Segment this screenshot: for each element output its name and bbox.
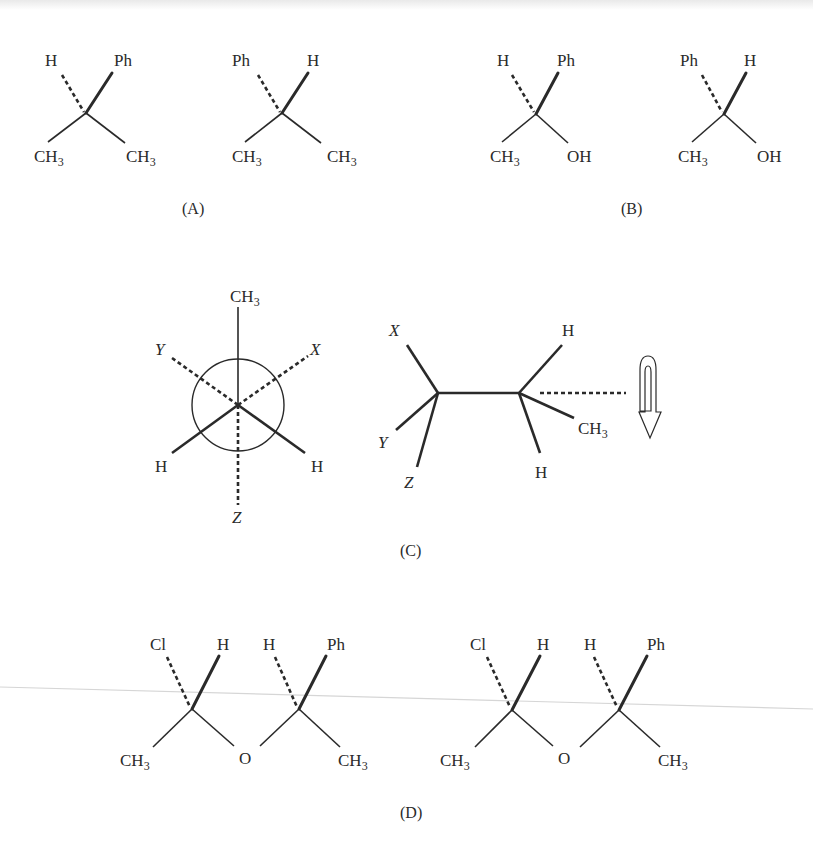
bond: [580, 710, 619, 747]
wedge-bond: [192, 656, 219, 709]
front-bond-right: [238, 405, 305, 453]
atom-label: CH3: [578, 419, 608, 441]
atom-label: Z: [232, 508, 242, 527]
panel-c: CH3 Y X H H Z X Y Z H CH3 H (C): [155, 287, 661, 560]
structure-d2: Cl H H Ph CH3 O CH3: [440, 635, 688, 773]
atom-label: O: [239, 749, 251, 768]
bond: [282, 113, 321, 143]
bond: [245, 113, 282, 142]
atom-label: H: [307, 51, 319, 70]
atom-label: CH3: [126, 147, 156, 169]
dashed-bond: [167, 657, 190, 707]
atom-label: H: [744, 51, 756, 70]
atom-label: X: [388, 321, 400, 340]
atom-label: H: [263, 635, 275, 654]
bond: [86, 113, 125, 143]
atom-label: CH3: [440, 751, 470, 773]
structure-b2: Ph H CH3 OH: [678, 51, 782, 169]
bond-x: [407, 345, 438, 393]
bond-z: [417, 393, 438, 467]
panel-caption: (D): [400, 804, 422, 822]
atom-label: Z: [404, 473, 414, 492]
bond: [299, 709, 340, 747]
atom-label: Cl: [470, 635, 486, 654]
panel-b: H Ph CH3 OH Ph H CH3 OH (B): [490, 51, 782, 218]
rotation-arrow-icon: [639, 356, 661, 438]
atom-label: CH3: [327, 147, 357, 169]
bond-h-up: [519, 345, 562, 393]
atom-label: CH3: [338, 751, 368, 773]
atom-label: Y: [155, 340, 166, 359]
atom-label: Ph: [680, 51, 698, 70]
wedge-bond: [619, 656, 647, 710]
atom-label: Cl: [150, 635, 166, 654]
atom-label: O: [558, 749, 570, 768]
atom-label: OH: [757, 147, 782, 166]
structure-a1: H Ph CH3 CH3: [34, 51, 156, 169]
atom-label: Y: [378, 433, 389, 452]
atom-label: H: [217, 635, 229, 654]
bond: [475, 710, 512, 747]
atom-label: CH3: [232, 147, 262, 169]
front-bond-left: [172, 405, 238, 453]
atom-label: H: [155, 457, 167, 476]
atom-label: CH3: [658, 751, 688, 773]
dashed-bond: [258, 75, 280, 112]
wedge-bond: [299, 656, 326, 709]
bond: [153, 709, 192, 747]
panel-a: H Ph CH3 CH3 Ph H CH3 CH3 (A): [34, 51, 357, 218]
back-bond-right: [238, 356, 308, 405]
atom-label: CH3: [120, 751, 150, 773]
wedge-bond: [282, 73, 308, 113]
dashed-bond: [487, 657, 510, 707]
bond: [260, 709, 299, 746]
bond: [512, 710, 553, 746]
atom-label: X: [309, 340, 321, 359]
atom-label: Ph: [557, 51, 575, 70]
bond: [502, 114, 536, 142]
atom-label: OH: [567, 147, 592, 166]
atom-label: H: [562, 321, 574, 340]
structure-d1: Cl H H Ph CH3 O CH3: [120, 635, 368, 773]
atom-label: Ph: [114, 51, 132, 70]
panel-caption: (C): [400, 542, 421, 560]
structure-b1: H Ph CH3 OH: [490, 51, 592, 169]
bond: [724, 114, 756, 143]
atom-label: Ph: [327, 635, 345, 654]
wedge-bond: [536, 73, 558, 114]
dashed-bond: [62, 75, 84, 112]
panel-caption: (A): [182, 200, 204, 218]
atom-label: CH3: [678, 147, 708, 169]
scan-artifact-line: [0, 687, 813, 709]
wedge-bond: [724, 73, 746, 114]
atom-label: H: [311, 457, 323, 476]
atom-label: H: [45, 51, 57, 70]
bond: [536, 114, 568, 143]
structure-a2: Ph H CH3 CH3: [232, 51, 357, 169]
sawhorse-projection: X Y Z H CH3 H: [378, 321, 661, 492]
panel-caption: (B): [621, 200, 642, 218]
bond: [48, 113, 86, 142]
bond: [619, 710, 660, 747]
atom-label: CH3: [490, 147, 520, 169]
back-bond-left: [172, 358, 238, 405]
atom-label: CH3: [34, 147, 64, 169]
atom-label: H: [537, 635, 549, 654]
atom-label: Ph: [647, 635, 665, 654]
atom-label: H: [584, 635, 596, 654]
dashed-bond: [512, 75, 534, 112]
bond: [692, 114, 724, 142]
dashed-bond: [594, 657, 617, 707]
wedge-bond: [86, 73, 112, 113]
dashed-bond: [702, 75, 722, 112]
atom-label: Ph: [232, 51, 250, 70]
newman-projection: CH3 Y X H H Z: [155, 287, 323, 527]
bond: [192, 709, 234, 746]
stereochemistry-figure: H Ph CH3 CH3 Ph H CH3 CH3 (A) H Ph CH3: [0, 0, 813, 849]
panel-d: Cl H H Ph CH3 O CH3 Cl H H Ph CH3 O CH3 …: [120, 635, 688, 822]
atom-label: H: [535, 463, 547, 482]
dashed-bond: [275, 657, 297, 707]
atom-label: H: [497, 51, 509, 70]
atom-label: CH3: [230, 287, 260, 309]
